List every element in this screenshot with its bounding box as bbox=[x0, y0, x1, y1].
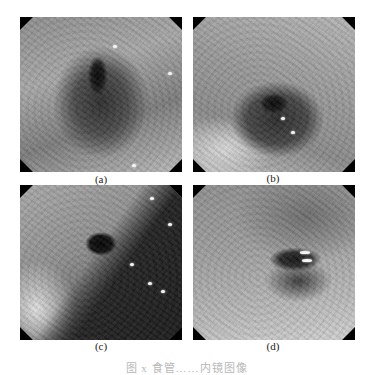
specular-glint bbox=[150, 197, 154, 200]
specular-glint bbox=[302, 259, 312, 262]
mucosa-texture bbox=[20, 17, 182, 172]
specular-glint bbox=[300, 251, 310, 254]
mucosa-texture bbox=[20, 185, 182, 340]
specular-glint bbox=[161, 290, 165, 293]
panel-a-image bbox=[20, 17, 182, 172]
panel-b-image bbox=[193, 17, 355, 172]
panel-c-label: (c) bbox=[81, 340, 121, 352]
specular-glint bbox=[291, 131, 295, 134]
specular-glint bbox=[130, 263, 134, 266]
panel-d-image bbox=[193, 185, 355, 340]
specular-glint bbox=[281, 117, 285, 120]
panel-c-image bbox=[20, 185, 182, 340]
endoscope-view bbox=[193, 17, 355, 172]
specular-glint bbox=[168, 72, 172, 75]
specular-glint bbox=[113, 45, 117, 48]
endoscope-view bbox=[20, 185, 182, 340]
panel-a-label: (a) bbox=[81, 173, 121, 185]
panel-d-label: (d) bbox=[253, 340, 293, 352]
panel-b-label: (b) bbox=[253, 172, 293, 184]
endoscope-view bbox=[20, 17, 182, 172]
mucosa-texture bbox=[193, 185, 355, 340]
specular-glint bbox=[132, 164, 136, 167]
mucosa-texture bbox=[193, 17, 355, 172]
figure-caption: 图 x 食管……内镜图像 bbox=[0, 359, 373, 375]
endoscope-view bbox=[193, 185, 355, 340]
specular-glint bbox=[168, 223, 172, 226]
specular-glint bbox=[148, 282, 152, 285]
